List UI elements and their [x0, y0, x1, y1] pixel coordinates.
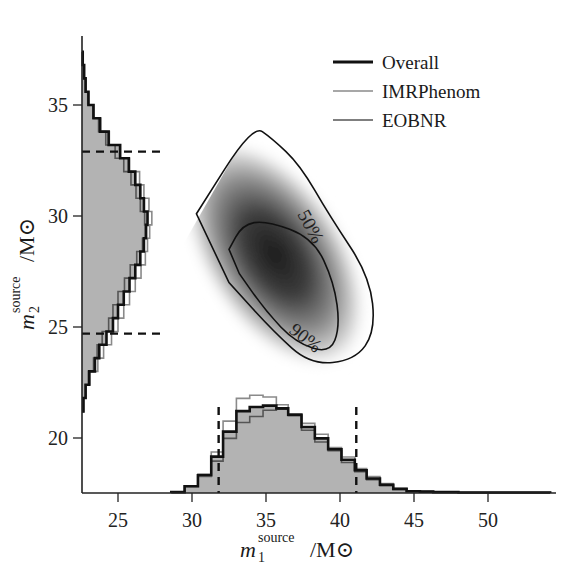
y-axis-label-symbol: m [14, 314, 39, 330]
m2-histogram [82, 52, 162, 412]
x-tick-label: 45 [404, 509, 424, 531]
corner-plot: 50%90% 25303540455020253035 OverallIMRPh… [0, 0, 564, 571]
x-tick-label: 50 [478, 509, 498, 531]
legend-label-overall: Overall [382, 52, 439, 73]
x-axis-label: m 1 source /M⊙ [240, 530, 354, 565]
m1-hist-fill [171, 406, 550, 493]
y-tick-label: 25 [48, 316, 68, 338]
x-tick-label: 30 [182, 509, 202, 531]
y-axis-label-subscript: 2 [27, 306, 42, 313]
x-axis-label-unit: /M⊙ [310, 537, 354, 562]
x-tick-label: 40 [330, 509, 350, 531]
y-axis-label-superscript: source [8, 276, 23, 313]
y-axis-label-unit: /M⊙ [14, 218, 39, 262]
x-tick-label: 35 [256, 509, 276, 531]
y-tick-label: 30 [48, 205, 68, 227]
density-region: 50%90% [144, 107, 406, 403]
legend-label-eobnr: EOBNR [382, 110, 447, 131]
m1-histogram [171, 395, 550, 493]
density-shading [144, 107, 406, 403]
y-tick-label: 35 [48, 94, 68, 116]
y-tick-label: 20 [48, 427, 68, 449]
x-axis-label-superscript: source [258, 530, 295, 545]
y-axis-label: m 2 source /M⊙ [8, 218, 42, 330]
x-axis-label-subscript: 1 [258, 550, 265, 565]
x-axis-label-symbol: m [240, 537, 256, 562]
legend: OverallIMRPhenomEOBNR [333, 52, 480, 131]
x-tick-label: 25 [108, 509, 128, 531]
legend-label-imrphenom: IMRPhenom [382, 81, 480, 102]
